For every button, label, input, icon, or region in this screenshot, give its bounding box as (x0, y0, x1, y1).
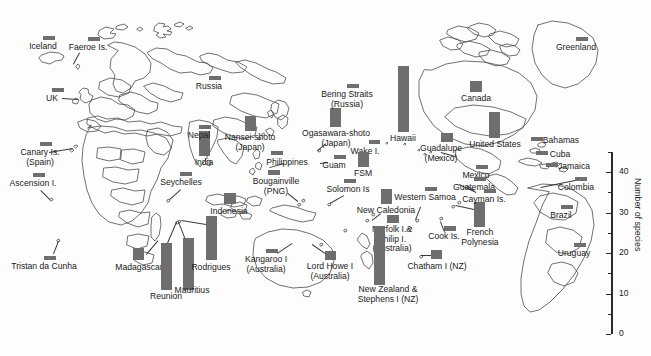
axis-tick-label: 40 (619, 166, 629, 176)
location-label: Colombia (558, 183, 594, 193)
location-label: Philippines (266, 158, 308, 168)
location-label: United States (469, 140, 521, 150)
location-label: Bougainville (PNG) (253, 177, 299, 196)
axis-tick-major (606, 172, 611, 173)
species-bar (330, 108, 341, 127)
species-bar (441, 133, 453, 142)
species-bar (88, 37, 100, 41)
axis-tick-minor (608, 314, 611, 315)
location-label: Brazil (550, 211, 572, 221)
species-bar (398, 66, 409, 132)
species-bar (199, 125, 211, 129)
species-bar (425, 187, 437, 191)
species-bar (344, 179, 356, 183)
species-bar (40, 142, 52, 146)
location-label: Cayman Is. (462, 195, 505, 205)
axis-tick-minor (608, 152, 611, 153)
species-bar (531, 137, 543, 141)
species-bar (245, 116, 256, 131)
location-label: Solomon Is (327, 185, 370, 195)
location-label: Nepal (188, 131, 210, 141)
location-label: Nansei-shoto (Japan) (225, 133, 276, 152)
location-label: Tristan da Cunha (11, 262, 77, 272)
species-bar (271, 151, 283, 155)
location-label: Kangaroo I (Australia) (245, 255, 287, 274)
location-label: Jamaica (558, 162, 590, 172)
axis-line (611, 152, 613, 334)
species-bar (52, 88, 64, 92)
location-label: UK (46, 94, 58, 104)
axis-tick-major (606, 334, 611, 335)
axis-tick-label: 30 (619, 207, 629, 217)
axis-tick-major (606, 213, 611, 214)
species-bar (574, 243, 586, 247)
location-label: New Caledonia (357, 206, 415, 216)
species-bar (369, 140, 380, 144)
axis-tick-minor (608, 273, 611, 274)
species-distribution-world-map-figure: IcelandFaeroe Is.UKCanary Is. (Spain)Asc… (0, 0, 651, 356)
species-bar (575, 177, 587, 181)
species-bar (576, 37, 588, 41)
species-bar (374, 226, 385, 285)
location-label: Faeroe Is. (69, 43, 108, 53)
species-bar (133, 248, 144, 260)
species-bar (43, 36, 55, 40)
location-label: Mauritius (175, 286, 210, 296)
species-bar (561, 205, 573, 209)
location-label: Indonesia (210, 207, 247, 217)
species-bar (546, 163, 558, 167)
location-label: Canary Is. (Spain) (20, 148, 59, 167)
location-label: New Zealand & Stephens I (NZ) (358, 285, 419, 304)
axis-caption-wrap: Number of species (629, 178, 643, 308)
axis-tick-label: 0 (619, 328, 624, 338)
leader-line (421, 255, 431, 256)
species-bar (431, 250, 442, 259)
species-bar (347, 84, 359, 88)
location-label: Bering Straits (Russia) (321, 90, 373, 109)
location-label: India (195, 158, 214, 168)
location-label: Russia (196, 82, 222, 92)
location-label: Iceland (29, 42, 57, 52)
species-bar (209, 76, 221, 80)
location-label: Guam (322, 161, 345, 171)
location-label: FSM (354, 169, 372, 179)
species-bar (334, 155, 346, 159)
location-label: Hawaii (390, 134, 416, 144)
location-label: Madagascar (115, 263, 162, 273)
location-label: Bahamas (543, 136, 579, 146)
species-bar (325, 251, 336, 260)
location-label: Cook Is. (428, 232, 460, 242)
world-map-outline (0, 0, 651, 356)
location-label: Rodrigues (191, 263, 230, 273)
location-label: Canada (461, 94, 491, 104)
location-label: Seychelles (160, 178, 202, 188)
axis-tick-minor (608, 233, 611, 234)
axis-tick-major (606, 253, 611, 254)
species-bar (470, 81, 482, 92)
axis-label: Number of species (629, 178, 643, 308)
location-label: French Polynesia (461, 228, 498, 247)
location-label: Western Samoa (394, 193, 455, 203)
axis-tick-label: 20 (619, 247, 629, 257)
species-bar (484, 189, 496, 193)
species-bar (489, 112, 500, 138)
species-bar (44, 256, 56, 260)
species-bar (381, 189, 392, 204)
location-label: Chatham I (NZ) (407, 262, 466, 272)
species-bar (224, 193, 236, 204)
species-bar (161, 243, 172, 290)
location-label: Uruguay (558, 249, 590, 259)
species-bar (268, 170, 280, 175)
species-bar (474, 202, 485, 227)
species-bar (180, 172, 192, 176)
species-bar (266, 249, 278, 253)
axis-tick-label: 10 (619, 288, 629, 298)
species-bar (206, 216, 217, 260)
species-bar (474, 177, 486, 181)
species-bar (387, 215, 399, 223)
location-label: Lord Howe I (Australia) (307, 262, 353, 281)
species-bar (358, 152, 369, 167)
location-label: Cuba (550, 150, 571, 160)
axis-tick-minor (608, 192, 611, 193)
species-bar (536, 151, 548, 155)
